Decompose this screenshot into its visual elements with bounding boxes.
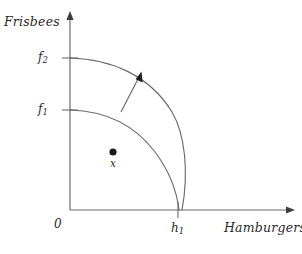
point-x-marker	[109, 148, 116, 155]
indifference-curve-f1	[70, 110, 179, 210]
point-x-label: x	[110, 158, 116, 169]
indifference-curve-figure: Frisbees Hamburgers f2 f1 h1 0 x	[0, 0, 302, 254]
x-tick-label-h1: h1	[171, 222, 184, 235]
origin-label: 0	[54, 218, 62, 230]
x-tick-label-h1-subscript: 1	[179, 226, 184, 236]
x-tick-label-h1-base: h	[171, 221, 179, 235]
y-tick-label-f2: f2	[38, 51, 48, 64]
y-tick-label-f2-subscript: 2	[42, 55, 47, 65]
y-tick-label-f1-subscript: 1	[42, 107, 47, 117]
indifference-curve-f2	[70, 58, 185, 210]
figure-canvas	[0, 0, 302, 254]
x-axis-label: Hamburgers	[224, 222, 302, 235]
preference-direction-arrow	[121, 72, 143, 113]
y-tick-label-f1: f1	[38, 103, 48, 116]
y-axis-label: Frisbees	[4, 16, 60, 29]
